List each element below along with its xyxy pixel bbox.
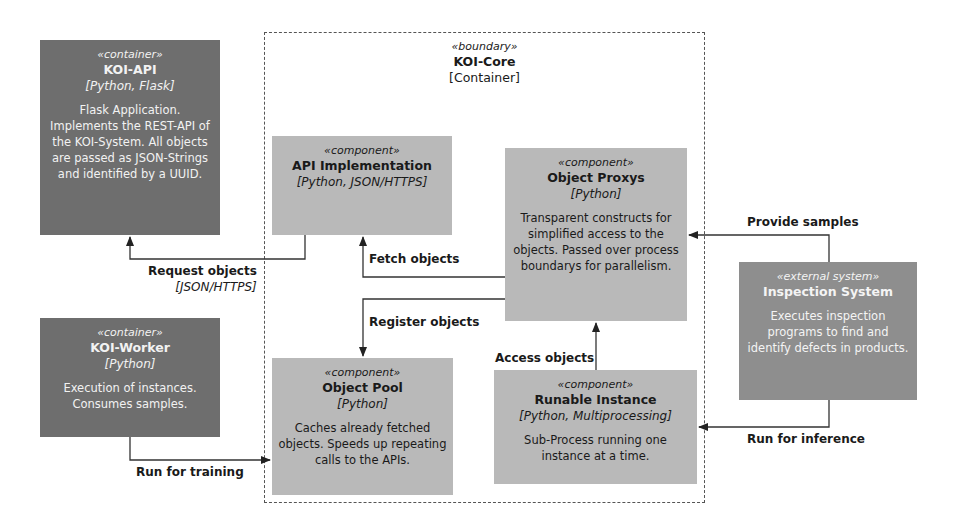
object-pool-stereotype: «component»	[325, 366, 401, 380]
edge-request-objects	[130, 235, 305, 259]
inspection-system-description: Executes inspection programs to find and…	[739, 308, 917, 356]
api-impl-stereotype: «component»	[324, 144, 400, 158]
runable-instance-description: Sub-Process running one instance at a ti…	[494, 432, 697, 464]
fetch-objects-label: Fetch objects	[369, 252, 460, 266]
koi-api-tech: [Python, Flask]	[85, 78, 174, 94]
run-for-inference-label: Run for inference	[747, 432, 865, 446]
runable-instance-stereotype: «component»	[558, 378, 634, 392]
label-register-objects: Register objects	[369, 314, 479, 330]
object-pool-description: Caches already fetched objects. Speeds u…	[272, 420, 453, 468]
label-run-for-inference: Run for inference	[747, 431, 865, 447]
inspection-system-title: Inspection System	[763, 284, 893, 300]
edge-run-for-inference	[699, 400, 829, 427]
object-pool-tech: [Python]	[337, 396, 388, 412]
api-implementation-component[interactable]: «component» API Implementation [Python, …	[272, 136, 452, 235]
object-proxys-tech: [Python]	[571, 186, 622, 202]
object-pool-title: Object Pool	[322, 380, 403, 396]
label-fetch-objects: Fetch objects	[369, 251, 460, 267]
koi-api-title: KOI-API	[103, 62, 156, 78]
runable-instance-tech: [Python, Multiprocessing]	[519, 408, 672, 424]
label-access-objects: Access objects	[495, 350, 594, 366]
inspection-system-external[interactable]: «external system» Inspection System Exec…	[739, 262, 917, 400]
koi-api-container[interactable]: «container» KOI-API [Python, Flask] Flas…	[40, 40, 220, 235]
access-objects-label: Access objects	[495, 351, 594, 365]
koi-api-stereotype: «container»	[97, 48, 163, 62]
object-proxys-description: Transparent constructs for simplified ac…	[505, 210, 687, 274]
label-provide-samples: Provide samples	[747, 214, 859, 230]
provide-samples-label: Provide samples	[747, 215, 859, 229]
label-request-objects: Request objects [JSON/HTTPS]	[148, 263, 257, 295]
koi-worker-stereotype: «container»	[97, 326, 163, 340]
api-impl-tech: [Python, JSON/HTTPS]	[297, 174, 428, 190]
register-objects-label: Register objects	[369, 315, 479, 329]
object-proxys-stereotype: «component»	[558, 156, 634, 170]
object-proxys-component[interactable]: «component» Object Proxys [Python] Trans…	[505, 148, 687, 321]
koi-worker-container[interactable]: «container» KOI-Worker [Python] Executio…	[40, 318, 220, 437]
api-impl-title: API Implementation	[292, 158, 432, 174]
runable-instance-title: Runable Instance	[534, 392, 656, 408]
request-objects-label: Request objects	[148, 263, 257, 279]
request-objects-tech: [JSON/HTTPS]	[148, 279, 257, 295]
edge-provide-samples	[689, 235, 829, 262]
edge-run-for-training	[130, 437, 270, 460]
koi-worker-tech: [Python]	[105, 356, 156, 372]
inspection-system-stereotype: «external system»	[777, 270, 880, 284]
koi-worker-title: KOI-Worker	[90, 340, 170, 356]
run-for-training-label: Run for training	[136, 465, 244, 479]
label-run-for-training: Run for training	[136, 464, 244, 480]
object-proxys-title: Object Proxys	[547, 170, 645, 186]
runable-instance-component[interactable]: «component» Runable Instance [Python, Mu…	[494, 370, 697, 484]
object-pool-component[interactable]: «component» Object Pool [Python] Caches …	[272, 358, 453, 495]
koi-worker-description: Execution of instances. Consumes samples…	[40, 380, 220, 412]
koi-api-description: Flask Application. Implements the REST-A…	[40, 102, 220, 182]
